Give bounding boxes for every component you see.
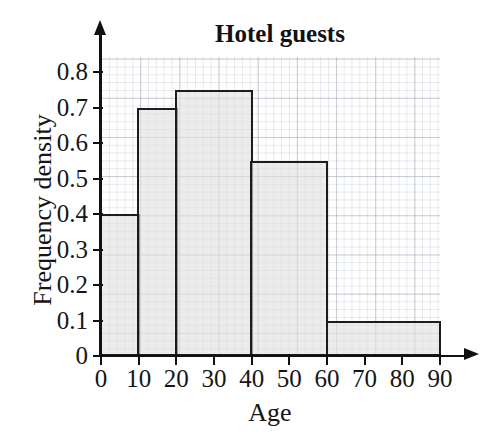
y-axis-arrow-icon	[94, 20, 106, 35]
y-axis-tick	[93, 284, 103, 286]
y-axis-tick	[93, 107, 103, 109]
y-axis-tick-label: 0	[8, 343, 88, 368]
x-axis-tick	[364, 354, 366, 365]
x-axis-tick-label: 90	[410, 366, 470, 391]
x-axis-tick	[326, 354, 328, 365]
histogram-chart: 00.10.20.30.40.50.60.70.8010203040506070…	[0, 0, 496, 446]
graph-paper-grid	[101, 57, 440, 356]
x-axis-arrow-icon	[464, 348, 479, 360]
y-axis-tick	[93, 142, 103, 144]
chart-title: Hotel guests	[160, 20, 400, 48]
y-axis-tick	[93, 213, 103, 215]
x-axis-line	[99, 355, 468, 358]
x-axis-tick	[401, 354, 403, 365]
y-axis-tick	[93, 71, 103, 73]
x-axis-tick	[251, 354, 253, 365]
x-axis-tick	[138, 354, 140, 365]
y-axis-tick	[93, 178, 103, 180]
x-axis-tick	[175, 354, 177, 365]
x-axis-tick	[288, 354, 290, 365]
x-axis-tick	[213, 354, 215, 365]
y-axis-title: Frequency density	[28, 80, 58, 340]
x-axis-tick	[100, 354, 102, 365]
y-axis-tick	[93, 320, 103, 322]
y-axis-line	[99, 33, 102, 357]
y-axis-tick	[93, 249, 103, 251]
x-axis-title: Age	[150, 398, 390, 428]
x-axis-tick	[439, 354, 441, 365]
